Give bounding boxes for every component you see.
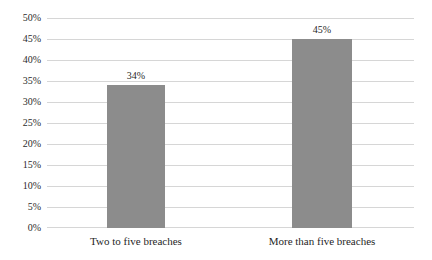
x-axis-category-label: More than five breaches [232, 236, 412, 247]
y-tick-label: 10% [23, 181, 41, 191]
y-tick-label: 20% [23, 139, 41, 149]
bar-more-than-five-breaches[interactable] [292, 39, 352, 228]
gridline [47, 207, 414, 208]
gridline [47, 81, 414, 82]
plot-area [47, 18, 414, 228]
y-tick-label: 25% [23, 118, 41, 128]
bar-chart: 50% 45% 40% 35% 30% 25% 20% 15% 10% 5% 0… [0, 0, 432, 260]
x-axis-category-label: Two to five breaches [46, 236, 226, 247]
y-tick-label: 5% [28, 202, 41, 212]
y-tick-label: 0% [28, 223, 41, 233]
y-tick-label: 15% [23, 160, 41, 170]
gridline [47, 18, 414, 19]
gridline [47, 123, 414, 124]
y-tick-label: 45% [23, 34, 41, 44]
x-axis-baseline [47, 227, 414, 228]
gridline [47, 39, 414, 40]
y-tick-label: 40% [23, 55, 41, 65]
y-tick-label: 35% [23, 76, 41, 86]
bar-value-label: 34% [107, 71, 165, 81]
gridline [47, 102, 414, 103]
gridline [47, 186, 414, 187]
y-axis: 50% 45% 40% 35% 30% 25% 20% 15% 10% 5% 0… [0, 18, 41, 228]
y-tick-label: 30% [23, 97, 41, 107]
bar-two-to-five-breaches[interactable] [107, 85, 165, 228]
y-tick-label: 50% [23, 13, 41, 23]
bar-value-label: 45% [292, 25, 352, 35]
gridline [47, 60, 414, 61]
gridline [47, 144, 414, 145]
gridline [47, 165, 414, 166]
